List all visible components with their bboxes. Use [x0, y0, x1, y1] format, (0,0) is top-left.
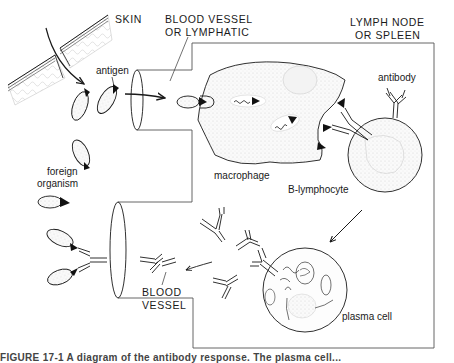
label-b-lymphocyte: B-lymphocyte [288, 184, 349, 196]
differentiation-arrow [330, 210, 362, 242]
plasma-cell [250, 248, 347, 332]
label-blood-vessel-2: VESSEL [142, 299, 186, 311]
label-macrophage: macrophage [214, 170, 270, 182]
figure-caption: FIGURE 17-1 A diagram of the antibody re… [0, 352, 341, 363]
label-antibody: antibody [378, 72, 416, 84]
label-antigen: antigen [96, 65, 129, 77]
label-foreign-organism-2: organism [37, 178, 78, 190]
b-lymphocyte [332, 88, 422, 192]
label-plasma-cell: plasma cell [342, 311, 392, 323]
label-blood-vessel-1: BLOOD [142, 286, 182, 298]
label-skin: SKIN [115, 13, 142, 25]
label-lymph-node-2: OR SPLEEN [355, 29, 421, 41]
label-blood-vessel-or-lymphatic-2: OR LYMPHATIC [165, 26, 249, 38]
label-blood-vessel-or-lymphatic-1: BLOOD VESSEL [165, 13, 253, 25]
macrophage [177, 62, 345, 164]
label-lymph-node-1: LYMPH NODE [350, 16, 425, 28]
label-foreign-organism-1: foreign [47, 166, 78, 178]
bound-antibodies [78, 248, 107, 272]
